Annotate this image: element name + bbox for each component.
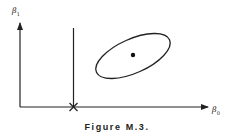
x-axis-label: β0 bbox=[212, 105, 220, 116]
diagram-svg bbox=[0, 0, 234, 138]
figure: β1 β0 Figure M.3. bbox=[0, 0, 234, 138]
y-axis-label: β1 bbox=[12, 6, 20, 17]
subscript: 1 bbox=[17, 11, 20, 17]
subscript: 0 bbox=[217, 110, 220, 116]
center-point bbox=[131, 53, 135, 57]
figure-caption: Figure M.3. bbox=[0, 122, 234, 132]
